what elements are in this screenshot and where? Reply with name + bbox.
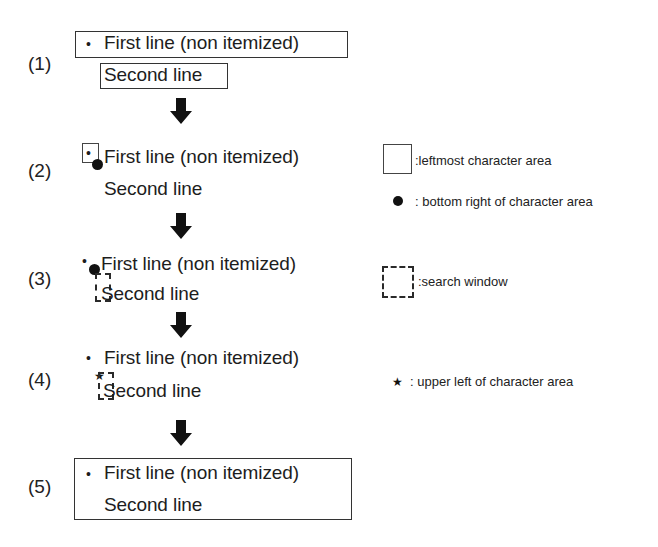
second-line-text: Second line <box>104 64 202 86</box>
step-label: (2) <box>28 160 51 182</box>
first-line-text: First line (non itemized) <box>104 146 299 168</box>
legend-text: :search window <box>418 274 508 289</box>
step-label: (5) <box>28 476 51 498</box>
first-line-text: First line (non itemized) <box>104 462 299 484</box>
bullet: • <box>86 350 91 366</box>
solid-square-icon <box>383 144 412 174</box>
first-line-text: First line (non itemized) <box>104 32 299 54</box>
down-arrow-icon <box>170 312 192 338</box>
star-icon: ★ <box>392 376 403 388</box>
bullet: • <box>86 36 91 52</box>
first-line-text: First line (non itemized) <box>104 347 299 369</box>
bullet: • <box>82 253 87 269</box>
second-line-text: Second line <box>104 494 202 516</box>
filled-dot-icon <box>393 196 403 206</box>
legend-text: : upper left of character area <box>410 374 573 389</box>
second-line-text: Second line <box>104 178 202 200</box>
bullet: • <box>86 466 91 482</box>
bullet: • <box>86 145 91 161</box>
step-label: (3) <box>28 268 51 290</box>
step-label: (1) <box>28 53 51 75</box>
bottom-right-dot <box>92 159 103 170</box>
down-arrow-icon <box>170 213 192 239</box>
legend-text: : bottom right of character area <box>415 194 593 209</box>
down-arrow-icon <box>170 420 192 446</box>
step-label: (4) <box>28 369 51 391</box>
dashed-square-icon <box>382 266 414 298</box>
second-line-text: Second line <box>101 283 199 305</box>
legend-text: :leftmost character area <box>415 153 552 168</box>
down-arrow-icon <box>170 98 192 124</box>
first-line-text: First line (non itemized) <box>101 253 296 275</box>
second-line-text: Second line <box>103 380 201 402</box>
